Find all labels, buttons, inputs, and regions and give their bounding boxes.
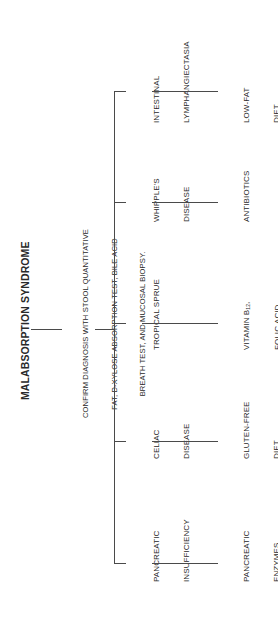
tick-intestinal (114, 91, 126, 92)
treatment-gluten-free-diet: GLUTEN-FREE DIET (222, 401, 278, 459)
comma: , (242, 302, 251, 304)
condition-line: PANCREATIC (152, 519, 162, 582)
treatment-line: ENZYMES (272, 531, 278, 582)
treatment-pancreatic-enzymes: PANCREATIC ENZYMES (222, 531, 278, 582)
tick-pancreatic (114, 563, 126, 564)
treatment-line: GLUTEN-FREE (242, 401, 252, 459)
condition-intestinal-lymphangiectasia: INTESTINAL LYMPHANGIECTASIA (132, 41, 202, 123)
condition-line: INTESTINAL (152, 41, 162, 123)
condition-line: WHIPPLE'S (152, 178, 162, 222)
connector-title-diagnosis (31, 329, 62, 330)
condition-pancreatic-insufficiency: PANCREATIC INSUFFICIENCY (132, 519, 202, 582)
treatment-line: LOW-FAT (242, 58, 252, 123)
condition-line: TROPICAL SPRUE (152, 279, 162, 350)
vitamin-subscript: 12 (245, 304, 251, 310)
condition-line: INSUFFICIENCY (182, 519, 192, 582)
treatment-line: DIET, (272, 58, 278, 123)
diagnosis-line-1: CONFIRM DIAGNOSIS WITH STOOL QUANTITATIV… (81, 230, 91, 418)
vitamin-b-label: VITAMIN B (242, 310, 251, 350)
connector-diagnosis-bracket (95, 329, 114, 330)
treatment-antibiotics: ANTIBIOTICS (222, 171, 262, 222)
tick-celiac (114, 441, 126, 442)
tick-whipple (114, 202, 126, 203)
tick-tropical (114, 323, 126, 324)
treatment-line: ANTIBIOTICS (242, 171, 252, 222)
treatment-vitamin-folic-antibiotics: VITAMIN B12, FOLIC ACID, ANTIBIOTICS (222, 299, 278, 350)
connector-tropical-treatment (142, 323, 218, 324)
treatment-line: PANCREATIC (242, 531, 252, 582)
treatment-line: VITAMIN B12, (242, 299, 253, 350)
connector-pancreatic-treatment (152, 563, 218, 564)
condition-whipples-disease: WHIPPLE'S DISEASE (132, 178, 202, 222)
treatment-low-fat-mct: LOW-FAT DIET, MEDIUM-CHAIN TRIGLYCERIDES (222, 58, 278, 123)
treatment-line: FOLIC ACID, (273, 299, 278, 350)
connector-whipple-treatment (152, 202, 218, 203)
connector-intestinal-treatment (152, 91, 218, 92)
condition-tropical-sprue: TROPICAL SPRUE (132, 279, 172, 350)
condition-line: LYMPHANGIECTASIA (182, 41, 192, 123)
diagram-title: MALABSORPTION SYNDROME (20, 241, 31, 400)
treatment-line: DIET (272, 401, 278, 459)
branch-bracket (114, 91, 115, 564)
condition-line: DISEASE (182, 178, 192, 222)
connector-celiac-treatment (152, 441, 218, 442)
